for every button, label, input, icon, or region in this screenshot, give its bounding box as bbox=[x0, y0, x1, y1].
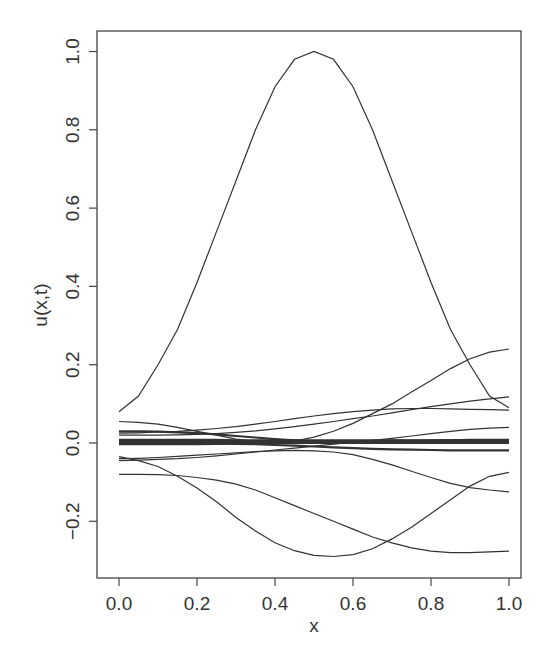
x-tick-label: 0.0 bbox=[106, 593, 132, 614]
series-line-t6 bbox=[119, 409, 509, 434]
x-tick-label: 0.8 bbox=[418, 593, 444, 614]
y-tick-label: 1.0 bbox=[62, 38, 83, 64]
series-line-t3 bbox=[119, 474, 509, 552]
y-tick-label: 0.6 bbox=[62, 195, 83, 221]
y-tick-label: 0.4 bbox=[62, 273, 83, 300]
plot-frame bbox=[97, 31, 521, 578]
y-axis: −0.20.00.20.40.60.81.0 bbox=[62, 38, 97, 540]
x-tick-label: 0.2 bbox=[184, 593, 210, 614]
x-tick-label: 0.4 bbox=[262, 593, 289, 614]
x-axis-title: x bbox=[309, 615, 319, 636]
y-tick-label: 0.8 bbox=[62, 117, 83, 143]
y-tick-label: −0.2 bbox=[62, 503, 83, 541]
y-tick-label: 0.2 bbox=[62, 351, 83, 377]
series-lines bbox=[119, 52, 509, 557]
x-axis: 0.00.20.40.60.81.0 bbox=[106, 578, 522, 614]
series-line-t4 bbox=[119, 450, 509, 492]
y-tick-label: 0.0 bbox=[62, 430, 83, 456]
y-axis-title: u(x,t) bbox=[30, 283, 51, 326]
x-tick-label: 1.0 bbox=[496, 593, 522, 614]
series-line-t2 bbox=[119, 457, 509, 557]
x-tick-label: 0.6 bbox=[340, 593, 366, 614]
series-line-t0 bbox=[119, 52, 509, 412]
line-chart: 0.00.20.40.60.81.0 −0.20.00.20.40.60.81.… bbox=[0, 0, 550, 664]
series-line-t1 bbox=[119, 349, 509, 442]
